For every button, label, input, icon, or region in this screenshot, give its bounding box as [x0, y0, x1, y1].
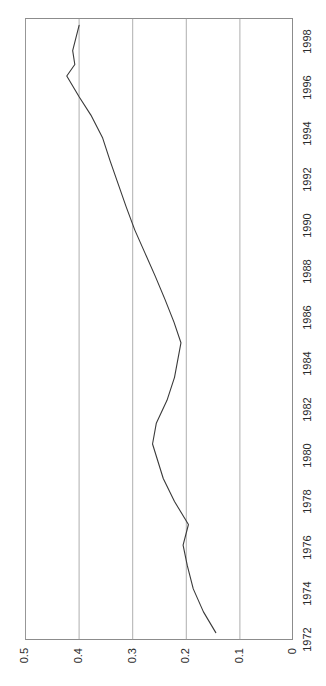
- year-tick-1994: 1994: [301, 121, 313, 145]
- year-tick-1974: 1974: [301, 581, 313, 605]
- chart-container: 0.5 0.4 0.3 0.2 0.1 0 197219741976197819…: [0, 0, 326, 686]
- year-tick-1984: 1984: [301, 351, 313, 375]
- value-axis-tick-labels: 0.5 0.4 0.3 0.2 0.1 0: [18, 648, 298, 663]
- year-tick-1990: 1990: [301, 213, 313, 237]
- year-tick-1998: 1998: [301, 29, 313, 53]
- plot-frame: [26, 19, 293, 640]
- year-tick-1986: 1986: [301, 305, 313, 329]
- year-tick-1996: 1996: [301, 75, 313, 99]
- year-tick-1972: 1972: [301, 627, 313, 651]
- value-tick-0.3: 0.3: [126, 648, 138, 663]
- value-tick-0: 0: [286, 648, 298, 654]
- year-tick-1976: 1976: [301, 535, 313, 559]
- year-tick-1978: 1978: [301, 489, 313, 513]
- year-tick-1980: 1980: [301, 443, 313, 467]
- year-tick-1982: 1982: [301, 397, 313, 421]
- value-tick-0.2: 0.2: [179, 648, 191, 663]
- series-group: [67, 25, 216, 632]
- year-tick-1992: 1992: [301, 167, 313, 191]
- gridlines: [26, 19, 240, 640]
- value-tick-0.1: 0.1: [233, 648, 245, 663]
- series-line-1: [67, 25, 216, 632]
- year-axis-tick-labels: 1972197419761978198019821984198619881990…: [301, 29, 313, 651]
- value-tick-0.4: 0.4: [72, 648, 84, 663]
- year-tick-1988: 1988: [301, 259, 313, 283]
- line-chart: 0.5 0.4 0.3 0.2 0.1 0 197219741976197819…: [0, 0, 326, 686]
- value-tick-0.5: 0.5: [18, 648, 30, 663]
